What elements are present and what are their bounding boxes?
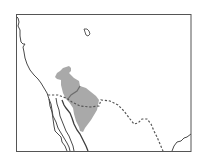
- range-map: [0, 0, 201, 164]
- background: [0, 0, 201, 164]
- map-canvas: [0, 0, 201, 164]
